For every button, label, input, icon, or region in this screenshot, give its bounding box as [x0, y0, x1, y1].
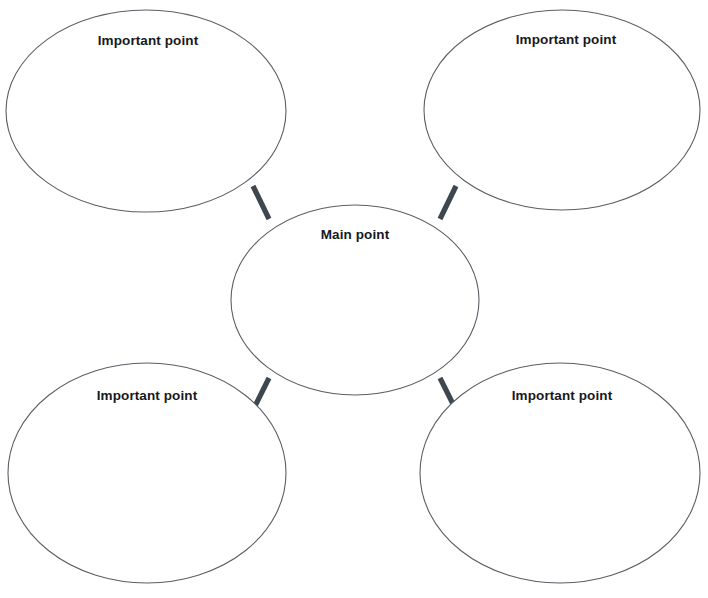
node-ellipse-center[interactable]: [231, 205, 479, 395]
connector-center-to-top-left: [253, 186, 269, 219]
node-ellipse-top-left[interactable]: [6, 10, 286, 212]
concept-map-canvas: Important point Important point Importan…: [0, 0, 708, 598]
node-ellipse-bottom-right[interactable]: [420, 363, 700, 583]
connector-center-to-top-right: [440, 186, 456, 219]
concept-map-graphics: [0, 0, 708, 598]
node-ellipse-bottom-left[interactable]: [8, 363, 286, 583]
node-ellipse-top-right[interactable]: [424, 10, 700, 210]
